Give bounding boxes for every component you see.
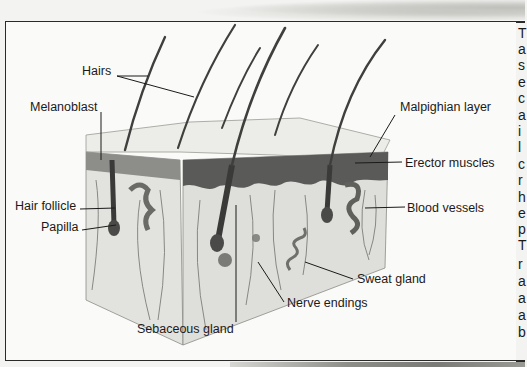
- label-hairs: Hairs: [82, 64, 111, 78]
- side-text-letter: c: [518, 91, 525, 105]
- side-text-letter: r: [518, 257, 523, 271]
- side-text-letter: T: [518, 238, 527, 252]
- side-text-letter: p: [518, 222, 526, 236]
- side-text-letter: a: [518, 274, 526, 288]
- side-text-letter: r: [518, 173, 523, 187]
- side-text-letter: a: [518, 291, 526, 305]
- side-text-letter: s: [518, 58, 525, 72]
- side-text-letter: T: [518, 26, 527, 40]
- label-hair-follicle: Hair follicle: [15, 199, 76, 213]
- side-text-letter: a: [518, 308, 526, 322]
- side-text-letter: a: [518, 42, 526, 56]
- side-text-letter: e: [518, 206, 526, 220]
- label-melanoblast: Melanoblast: [30, 100, 97, 114]
- side-text-letter: b: [518, 325, 526, 339]
- side-text-letter: e: [518, 75, 526, 89]
- label-blood-vessels: Blood vessels: [407, 201, 484, 215]
- label-papilla: Papilla: [41, 220, 79, 234]
- label-malpighian-layer: Malpighian layer: [400, 100, 491, 114]
- side-text-letter: a: [518, 108, 526, 122]
- label-erector-muscles: Erector muscles: [405, 156, 495, 170]
- side-text-letter: c: [518, 157, 525, 171]
- side-text-letter: i: [518, 124, 521, 138]
- side-text-letter: l: [518, 140, 521, 154]
- side-text-letter: h: [518, 190, 526, 204]
- label-sweat-gland: Sweat gland: [357, 272, 426, 286]
- label-nerve-endings: Nerve endings: [287, 296, 368, 310]
- label-sebaceous-gland: Sebaceous gland: [137, 322, 234, 336]
